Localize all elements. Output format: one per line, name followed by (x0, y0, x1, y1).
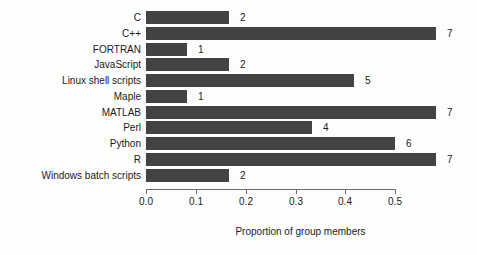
x-axis-tick (146, 189, 147, 194)
x-axis-tick-label: 0.3 (276, 196, 316, 207)
category-label: C++ (122, 28, 141, 39)
bar (146, 137, 395, 150)
category-label: C (134, 12, 141, 23)
category-label: Python (110, 138, 141, 149)
bar (146, 90, 187, 103)
bar-value-label: 7 (447, 28, 453, 39)
bar (146, 153, 436, 166)
bar (146, 43, 187, 56)
category-label: Perl (123, 122, 141, 133)
category-label: Linux shell scripts (62, 75, 141, 86)
bar-value-label: 2 (240, 12, 246, 23)
bar (146, 169, 229, 182)
bar (146, 11, 229, 24)
x-axis-tick (296, 189, 297, 194)
bar-chart: C C++ FORTRAN JavaScript Linux shell scr… (0, 0, 477, 255)
bar-value-label: 2 (240, 170, 246, 181)
x-axis-tick (345, 189, 346, 194)
bar (146, 74, 354, 87)
category-label: MATLAB (102, 107, 141, 118)
bar-value-label: 7 (447, 154, 453, 165)
x-axis-tick-label: 0.1 (176, 196, 216, 207)
bar-value-label: 5 (365, 75, 371, 86)
x-axis-tick (395, 189, 396, 194)
bar-value-label: 6 (406, 138, 412, 149)
bar-value-label: 1 (198, 91, 204, 102)
bar (146, 106, 436, 119)
x-axis-tick-label: 0.4 (325, 196, 365, 207)
x-axis-tick-label: 0.5 (375, 196, 415, 207)
category-label: JavaScript (94, 59, 141, 70)
bar (146, 58, 229, 71)
bar (146, 121, 312, 134)
x-axis-tick-label: 0.2 (226, 196, 266, 207)
x-axis-line (146, 189, 395, 190)
bar-value-label: 1 (198, 44, 204, 55)
x-axis-title: Proportion of group members (0, 226, 477, 237)
category-label: FORTRAN (93, 44, 141, 55)
category-label: Windows batch scripts (42, 170, 141, 181)
x-axis-tick (246, 189, 247, 194)
bar-value-label: 2 (240, 59, 246, 70)
category-label: Maple (114, 91, 141, 102)
bar (146, 27, 436, 40)
x-axis-title-text: Proportion of group members (235, 226, 365, 237)
bar-value-label: 4 (323, 122, 329, 133)
category-label: R (134, 154, 141, 165)
x-axis-tick-label: 0.0 (126, 196, 166, 207)
x-axis-tick (196, 189, 197, 194)
bar-value-label: 7 (447, 107, 453, 118)
